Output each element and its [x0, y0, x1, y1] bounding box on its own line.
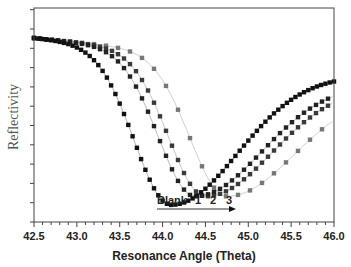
- data-point: [306, 88, 310, 92]
- data-point: [128, 49, 132, 53]
- x-axis-ticks: [34, 222, 334, 227]
- data-point: [242, 177, 246, 181]
- data-point: [104, 50, 108, 54]
- data-point: [314, 111, 318, 115]
- data-point: [134, 69, 138, 73]
- data-point: [319, 83, 323, 87]
- data-point: [148, 178, 152, 182]
- data-point: [139, 157, 143, 161]
- shift-arrow-icon: [157, 206, 236, 212]
- data-point: [135, 146, 139, 150]
- data-point: [92, 58, 96, 62]
- data-point: [53, 39, 57, 43]
- data-point: [164, 154, 168, 158]
- data-point: [236, 193, 240, 197]
- data-point: [208, 183, 212, 187]
- data-point: [62, 41, 66, 45]
- data-point: [118, 101, 122, 105]
- data-point: [225, 164, 229, 168]
- data-point: [260, 181, 264, 185]
- data-point: [320, 127, 324, 131]
- x-tick-label: 44.0: [152, 230, 173, 242]
- data-point: [88, 54, 92, 58]
- x-tick-label: 43.0: [66, 230, 87, 242]
- data-point: [266, 155, 270, 159]
- data-point: [236, 182, 240, 186]
- data-point: [229, 159, 233, 163]
- data-point: [134, 84, 138, 88]
- data-point: [260, 161, 264, 165]
- data-point: [45, 38, 49, 42]
- y-axis-label: Reflectivity: [6, 84, 21, 150]
- data-point: [122, 112, 126, 116]
- data-point: [152, 101, 156, 105]
- data-point: [152, 67, 156, 71]
- data-point: [110, 54, 114, 58]
- data-point: [284, 136, 288, 140]
- data-point: [308, 115, 312, 119]
- data-point: [323, 82, 327, 86]
- x-tick-label: 43.5: [109, 230, 130, 242]
- data-point: [259, 124, 263, 128]
- data-point: [296, 149, 300, 153]
- data-point: [109, 83, 113, 87]
- data-point: [105, 75, 109, 79]
- data-point: [176, 158, 180, 162]
- data-point: [182, 187, 186, 191]
- data-point: [224, 183, 228, 187]
- data-point: [203, 187, 207, 191]
- data-point: [276, 108, 280, 112]
- data-point: [152, 186, 156, 190]
- data-point: [320, 99, 324, 103]
- x-tick-label: 46.0: [323, 230, 344, 242]
- data-point: [246, 138, 250, 142]
- data-point: [164, 129, 168, 133]
- data-point: [263, 120, 267, 124]
- data-point: [280, 104, 284, 108]
- data-point: [49, 38, 53, 42]
- data-point: [140, 78, 144, 82]
- y-axis-ticks: [30, 10, 34, 222]
- data-point: [268, 115, 272, 119]
- data-point: [326, 104, 330, 108]
- data-point: [140, 56, 144, 60]
- x-tick-label: 45.0: [238, 230, 259, 242]
- data-point: [248, 162, 252, 166]
- data-point: [83, 50, 87, 54]
- data-point: [328, 80, 332, 84]
- x-tick-label: 42.5: [23, 230, 44, 242]
- data-point: [296, 125, 300, 129]
- data-point: [310, 86, 314, 90]
- data-point: [290, 120, 294, 124]
- data-point: [290, 131, 294, 135]
- data-point: [170, 167, 174, 171]
- data-point: [146, 110, 150, 114]
- data-point: [116, 59, 120, 63]
- data-point: [110, 49, 114, 53]
- data-point: [40, 37, 44, 41]
- data-point: [302, 120, 306, 124]
- data-point: [80, 42, 84, 46]
- data-point: [326, 97, 330, 101]
- data-point: [182, 171, 186, 175]
- data-point: [248, 188, 252, 192]
- data-point: [266, 143, 270, 147]
- data-point: [230, 186, 234, 190]
- data-point: [284, 160, 288, 164]
- annotation-3: 3: [226, 194, 232, 206]
- data-point: [66, 42, 70, 46]
- data-point: [308, 106, 312, 110]
- data-point: [188, 182, 192, 186]
- data-point: [152, 124, 156, 128]
- data-point: [58, 40, 62, 44]
- data-point: [298, 92, 302, 96]
- data-point: [212, 185, 216, 189]
- data-point: [260, 149, 264, 153]
- data-point: [98, 47, 102, 51]
- data-point: [122, 56, 126, 60]
- data-point: [230, 178, 234, 182]
- data-point: [254, 155, 258, 159]
- data-point: [220, 169, 224, 173]
- data-point: [272, 171, 276, 175]
- data-point: [254, 166, 258, 170]
